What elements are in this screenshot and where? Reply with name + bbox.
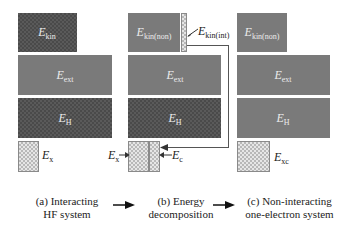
c-xc-label: Exc — [274, 150, 289, 166]
b-correlation-label: Ec — [172, 148, 183, 164]
c-external-label: Eext — [274, 68, 291, 84]
b-exchange-label: Ex — [108, 148, 119, 164]
connector-bottom — [165, 147, 228, 148]
a-external-label: Eext — [56, 68, 73, 84]
a-kinetic-label: Ekin — [38, 25, 56, 41]
b-correlation-pointer-icon — [158, 152, 172, 158]
b-exchange-pointer-icon — [119, 152, 131, 158]
a-exchange-box — [18, 141, 39, 172]
b-kinetic-int-pointer-icon — [185, 28, 199, 38]
b-kinetic-int-label: Ekin(int) — [198, 24, 229, 40]
a-exchange-label: Ex — [42, 148, 53, 164]
c-xc-box — [237, 141, 270, 172]
b-exchange-box — [128, 141, 149, 172]
b-kinetic-non-label: Ekin(non) — [137, 25, 172, 41]
connector-vertical — [228, 45, 229, 148]
caption-a: (a) InteractingHF system — [12, 195, 122, 221]
a-hartree-label: EH — [58, 111, 71, 127]
b-hartree-label: EH — [168, 111, 181, 127]
caption-c: (c) Non-interactingone-electron system — [232, 195, 345, 221]
connector-arrowhead-icon — [160, 144, 168, 151]
connector-top — [187, 45, 228, 46]
b-external-label: Eext — [166, 68, 183, 84]
c-kinetic-non-label: Ekin(non) — [245, 25, 280, 41]
c-hartree-label: EH — [276, 111, 289, 127]
